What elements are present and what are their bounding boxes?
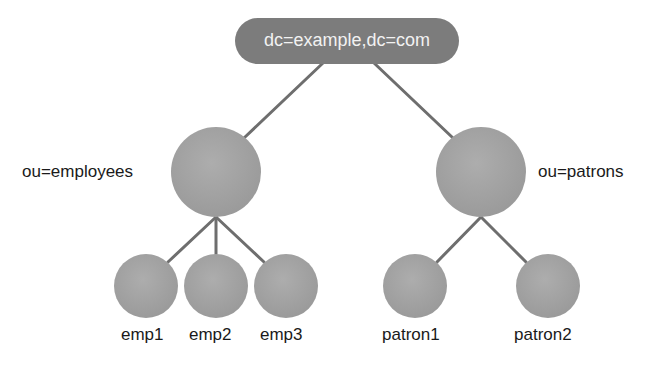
node-emp3 <box>254 254 318 318</box>
node-emp2 <box>184 254 248 318</box>
node-patron2 <box>516 254 580 318</box>
edge-patrons-patron2 <box>481 217 526 262</box>
node-employees <box>171 127 261 217</box>
node-emp1 <box>114 254 178 318</box>
branch-label-employees: ou=employees <box>22 162 133 182</box>
edge-patrons-patron1 <box>437 217 481 262</box>
leaf-label-emp1: emp1 <box>121 325 164 345</box>
leaf-label-emp2: emp2 <box>189 325 232 345</box>
edge-root-employees <box>244 63 323 138</box>
node-patrons <box>436 127 526 217</box>
leaf-label-patron2: patron2 <box>514 325 572 345</box>
leaf-label-patron1: patron1 <box>382 325 440 345</box>
edge-root-patrons <box>374 63 453 138</box>
tree-diagram <box>0 0 669 369</box>
branch-label-patrons: ou=patrons <box>538 162 624 182</box>
node-patron1 <box>383 254 447 318</box>
leaf-label-emp3: emp3 <box>260 325 303 345</box>
root-label: dc=example,dc=com <box>235 30 459 51</box>
